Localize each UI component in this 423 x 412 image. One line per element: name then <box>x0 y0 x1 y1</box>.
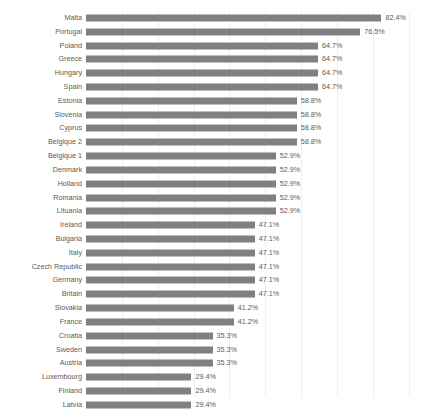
bar-value-label: 64.7% <box>322 42 342 50</box>
category-label: Malta <box>0 14 82 22</box>
bar <box>86 111 297 118</box>
bar-value-label: 52.9% <box>280 152 300 160</box>
bar-value-label: 58.8% <box>301 111 321 119</box>
category-label: Spain <box>0 83 82 91</box>
bar-value-label: 52.9% <box>280 166 300 174</box>
bar-value-label: 35.3% <box>217 359 237 367</box>
bar-value-label: 52.9% <box>280 207 300 215</box>
bar <box>86 249 255 256</box>
category-label: Czech Republic <box>0 263 82 271</box>
bar <box>86 166 276 173</box>
bar-row: Czech Republic47.1% <box>0 260 423 274</box>
bar <box>86 180 276 187</box>
bar-row: Finland29.4% <box>0 384 423 398</box>
bar <box>86 401 191 408</box>
bar <box>86 318 234 325</box>
bar-row: Austria35.3% <box>0 357 423 371</box>
bar <box>86 360 213 367</box>
bar-value-label: 82.4% <box>385 14 405 22</box>
bar-value-label: 76.5% <box>364 28 384 36</box>
bar-value-label: 64.7% <box>322 69 342 77</box>
category-label: Ireland <box>0 221 82 229</box>
category-label: Romania <box>0 194 82 202</box>
bar-value-label: 47.1% <box>259 276 279 284</box>
bar-value-label: 58.8% <box>301 138 321 146</box>
bar-row: Britain47.1% <box>0 287 423 301</box>
category-label: Estonia <box>0 97 82 105</box>
bar-value-label: 29.4% <box>195 373 215 381</box>
category-label: Britain <box>0 290 82 298</box>
bar-row: Denmark52.9% <box>0 163 423 177</box>
bar-row: Holland52.9% <box>0 177 423 191</box>
bar-value-label: 41.2% <box>238 318 258 326</box>
category-label: Belgique 2 <box>0 138 82 146</box>
bar <box>86 97 297 104</box>
bar-row: Lituania52.9% <box>0 204 423 218</box>
bar <box>86 222 255 229</box>
category-label: Latvia <box>0 401 82 409</box>
category-label: Portugal <box>0 28 82 36</box>
bar-row: Hungary64.7% <box>0 66 423 80</box>
bar <box>86 263 255 270</box>
bar-value-label: 52.9% <box>280 180 300 188</box>
bar-row: Romania52.9% <box>0 191 423 205</box>
category-label: Slovenia <box>0 111 82 119</box>
bar-row: Belgique 258.8% <box>0 135 423 149</box>
bar-value-label: 64.7% <box>322 55 342 63</box>
bar <box>86 42 318 49</box>
bar-row: Croatia35.3% <box>0 329 423 343</box>
category-label: France <box>0 318 82 326</box>
bar <box>86 83 318 90</box>
category-label: Denmark <box>0 166 82 174</box>
bar <box>86 70 318 77</box>
bar <box>86 56 318 63</box>
bar <box>86 28 360 35</box>
category-label: Finland <box>0 387 82 395</box>
category-label: Lituania <box>0 207 82 215</box>
bar-row: Estonia58.8% <box>0 94 423 108</box>
bar <box>86 332 213 339</box>
category-label: Holland <box>0 180 82 188</box>
bar-row: Cyprus58.8% <box>0 122 423 136</box>
category-label: Greece <box>0 55 82 63</box>
bar-row: Malta82.4% <box>0 11 423 25</box>
bar-row: Italy47.1% <box>0 246 423 260</box>
category-label: Belgique 1 <box>0 152 82 160</box>
bar-value-label: 29.4% <box>195 387 215 395</box>
bar-value-label: 35.3% <box>217 332 237 340</box>
category-label: Hungary <box>0 69 82 77</box>
category-label: Italy <box>0 249 82 257</box>
bar-row: Sweden35.3% <box>0 343 423 357</box>
bar-value-label: 64.7% <box>322 83 342 91</box>
bar <box>86 208 276 215</box>
category-label: Croatia <box>0 332 82 340</box>
bar-value-label: 47.1% <box>259 249 279 257</box>
bar-value-label: 29.4% <box>195 401 215 409</box>
category-label: Poland <box>0 42 82 50</box>
bar-row: Ireland47.1% <box>0 218 423 232</box>
bar-row: Luxembourg29.4% <box>0 370 423 384</box>
bar <box>86 236 255 243</box>
bar-value-label: 58.8% <box>301 97 321 105</box>
bar <box>86 277 255 284</box>
bar <box>86 291 255 298</box>
bar-value-label: 58.8% <box>301 124 321 132</box>
bar-row: Latvia29.4% <box>0 398 423 412</box>
bar-value-label: 41.2% <box>238 304 258 312</box>
category-label: Cyprus <box>0 124 82 132</box>
bar <box>86 14 381 21</box>
bar <box>86 125 297 132</box>
bar-row: Slovenia58.8% <box>0 108 423 122</box>
bar-row: Poland64.7% <box>0 39 423 53</box>
bar-value-label: 52.9% <box>280 194 300 202</box>
bar-row: Slovakia41.2% <box>0 301 423 315</box>
bar-value-label: 47.1% <box>259 290 279 298</box>
bar <box>86 388 191 395</box>
category-label: Germany <box>0 276 82 284</box>
category-label: Austria <box>0 359 82 367</box>
bar-value-label: 47.1% <box>259 235 279 243</box>
bar-row: Greece64.7% <box>0 52 423 66</box>
bar <box>86 153 276 160</box>
